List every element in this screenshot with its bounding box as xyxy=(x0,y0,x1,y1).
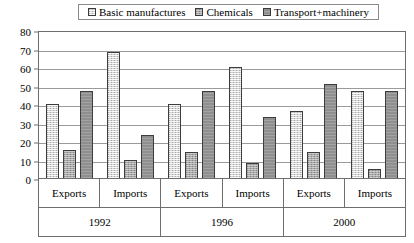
bar xyxy=(141,135,154,178)
bar xyxy=(324,84,337,178)
bar-series-container xyxy=(39,32,405,178)
bar-group xyxy=(161,32,222,178)
x-axis-subgroup-row: ExportsImportsExportsImportsExportsImpor… xyxy=(39,179,405,208)
x-axis-subgroup-label: Exports xyxy=(161,179,222,207)
bar xyxy=(202,91,215,178)
x-axis-subgroup-label: Imports xyxy=(223,179,284,207)
bar xyxy=(168,104,181,178)
bar xyxy=(80,91,93,178)
y-axis-tick-label: 10 xyxy=(20,156,31,167)
period-group xyxy=(283,32,405,178)
bar xyxy=(263,117,276,178)
legend-item-transport-machinery: Transport+machinery xyxy=(263,7,369,18)
bar xyxy=(368,169,381,178)
x-axis-subgroup-label: Exports xyxy=(39,179,100,207)
bar-chart-figure: Basic manufactures Chemicals Transport+m… xyxy=(0,0,414,243)
legend-label-chemicals: Chemicals xyxy=(206,7,252,18)
legend-swatch-transport-machinery xyxy=(263,8,271,16)
plot-area xyxy=(38,31,406,179)
bar-group xyxy=(283,32,344,178)
y-axis: 01020304050607080 xyxy=(0,31,38,180)
bar xyxy=(63,150,76,178)
bar xyxy=(107,52,120,178)
bar xyxy=(385,91,398,178)
x-axis: ExportsImportsExportsImportsExportsImpor… xyxy=(38,179,406,237)
legend-item-chemicals: Chemicals xyxy=(195,7,252,18)
x-axis-subgroup-label: Imports xyxy=(345,179,405,207)
y-axis-tick-label: 40 xyxy=(20,101,31,112)
bar xyxy=(351,91,364,178)
x-axis-period-label: 1992 xyxy=(39,208,161,236)
x-axis-period-label: 1996 xyxy=(161,208,283,236)
period-group xyxy=(39,32,161,178)
bar xyxy=(229,67,242,178)
y-axis-tick-label: 60 xyxy=(20,64,31,75)
legend-swatch-basic-manufactures xyxy=(88,8,96,16)
x-axis-period-row: 199219962000 xyxy=(39,208,405,236)
chart-legend: Basic manufactures Chemicals Transport+m… xyxy=(78,4,379,20)
period-group xyxy=(161,32,283,178)
bar-group xyxy=(100,32,161,178)
y-axis-tick-label: 20 xyxy=(20,138,31,149)
bar xyxy=(246,163,259,178)
bar xyxy=(290,111,303,178)
y-axis-tick-label: 0 xyxy=(26,175,32,186)
bar-group xyxy=(222,32,283,178)
x-axis-period-label: 2000 xyxy=(284,208,405,236)
bar xyxy=(185,152,198,178)
bar xyxy=(307,152,320,178)
bar-group xyxy=(39,32,100,178)
bar xyxy=(124,160,137,179)
y-axis-tick-label: 80 xyxy=(20,27,31,38)
y-axis-tick-label: 70 xyxy=(20,45,31,56)
bar-group xyxy=(344,32,405,178)
legend-label-basic-manufactures: Basic manufactures xyxy=(99,7,185,18)
y-axis-tick-label: 50 xyxy=(20,82,31,93)
x-axis-subgroup-label: Imports xyxy=(100,179,161,207)
legend-item-basic-manufactures: Basic manufactures xyxy=(88,7,185,18)
y-axis-tick-label: 30 xyxy=(20,119,31,130)
legend-swatch-chemicals xyxy=(195,8,203,16)
x-axis-subgroup-label: Exports xyxy=(284,179,345,207)
bar xyxy=(46,104,59,178)
legend-label-transport-machinery: Transport+machinery xyxy=(274,7,369,18)
